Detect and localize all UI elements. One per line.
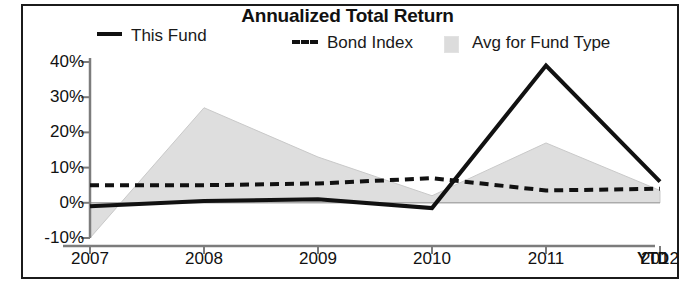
y-axis-label: 0%: [22, 193, 84, 213]
y-axis-label: 10%: [22, 158, 84, 178]
y-axis-label: 40%: [22, 52, 84, 72]
area-fill-swatch-icon: [444, 36, 459, 53]
dashed-line-swatch-icon: [292, 40, 318, 44]
solid-line-swatch-icon: [97, 32, 122, 36]
x-axis-label: 2008: [185, 249, 223, 269]
y-axis-label: -10%: [22, 228, 84, 248]
legend-item-bond-index[interactable]: Bond Index: [292, 32, 413, 54]
legend-item-avg-for-fund-type[interactable]: Avg for Fund Type: [444, 32, 610, 54]
legend-label-avg-for-fund-type: Avg for Fund Type: [472, 33, 610, 53]
annualized-total-return-chart: Annualized Total Return This Fund Bond I…: [0, 0, 695, 286]
x-axis-label: 2011: [528, 249, 565, 269]
x-axis-ytd-label: YTD: [637, 250, 669, 268]
y-axis-label: 30%: [22, 87, 84, 107]
legend-label-bond-index: Bond Index: [327, 33, 413, 53]
legend-item-this-fund[interactable]: This Fund: [97, 25, 207, 47]
x-axis-label: 2009: [299, 249, 337, 269]
y-axis-label: 20%: [22, 122, 84, 142]
chart-title: Annualized Total Return: [0, 5, 695, 27]
legend-label-this-fund: This Fund: [131, 26, 207, 46]
x-axis-label: 2007: [71, 249, 109, 269]
x-axis-label: 2010: [413, 249, 451, 269]
y-axis: 40%30%20%10%0%-10%: [22, 0, 84, 286]
chart-legend: This Fund Bond Index Avg for Fund Type: [0, 25, 695, 51]
